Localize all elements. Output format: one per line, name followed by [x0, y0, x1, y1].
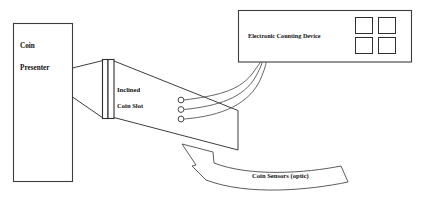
display-segment-top-left	[356, 18, 373, 34]
neck-bottom-edge	[73, 97, 104, 118]
chute-bottom-edge	[114, 118, 238, 151]
diagram-canvas: Coin Presenter Inclined Coin Slot Electr…	[0, 0, 425, 201]
display-segment-bottom-left	[356, 38, 373, 54]
inclined-coin-slot-label-line2: Coin Slot	[117, 102, 144, 109]
coin-presenter-label-line1: Coin	[20, 42, 35, 50]
sensor-wire-2	[184, 62, 262, 110]
inclined-coin-slot-bar-left	[103, 60, 109, 119]
coin-counter-diagram: Coin Presenter Inclined Coin Slot Electr…	[0, 0, 425, 201]
electronic-counting-device-label: Electronic Counting Device	[248, 32, 321, 39]
coin-sensors-callout-arrow	[182, 144, 348, 190]
inclined-coin-slot-label-line1: Inclined	[117, 86, 140, 93]
coin-sensors-label: Coin Sensors (optic)	[252, 172, 309, 180]
display-segment-bottom-right	[379, 38, 396, 54]
display-segment-top-right	[379, 18, 396, 34]
sensor-wire-3	[184, 62, 266, 119]
coin-presenter-label-line2: Presenter	[20, 64, 50, 72]
optic-sensor-1	[178, 97, 184, 103]
optic-sensor-2	[178, 107, 184, 113]
inclined-coin-slot-bar-right	[108, 60, 114, 119]
neck-top-edge	[73, 61, 104, 69]
optic-sensor-3	[178, 116, 184, 122]
sensor-wire-1	[184, 62, 260, 100]
